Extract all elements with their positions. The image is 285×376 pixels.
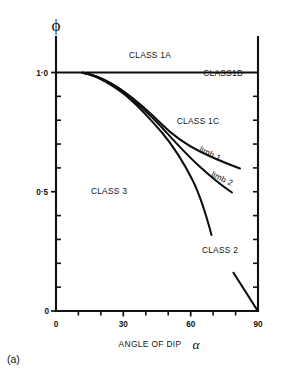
y-tick-label-0: 0	[44, 307, 49, 316]
y-tick-label-1-0: 1·0	[36, 69, 48, 78]
axes-group	[56, 37, 258, 311]
figure-panel-a: 1·0 0·5 0 0 30 60 90 ϕ ANGLE OF DIP α CL…	[0, 0, 285, 376]
x-tick-label-0: 0	[54, 320, 59, 329]
y-tick-label-0-5: 0·5	[36, 188, 48, 197]
region-label-class-1a: CLASS 1A	[129, 50, 171, 60]
region-label-class-3: CLASS 3	[91, 186, 127, 196]
x-tick-label-90: 90	[253, 320, 263, 329]
curve-limb-2	[83, 73, 233, 193]
region-label-class-1b: CLASS1B	[203, 68, 243, 78]
panel-caption: (a)	[7, 353, 20, 365]
x-axis-title: ANGLE OF DIP	[119, 339, 182, 349]
region-label-class-1c: CLASS 1C	[177, 116, 220, 126]
x-tick-label-60: 60	[186, 320, 196, 329]
region-label-class-2: CLASS 2	[202, 245, 238, 255]
curve-class3-boundary	[83, 73, 212, 235]
x-tick-label-30: 30	[119, 320, 129, 329]
curve-class2-boundary	[233, 272, 258, 311]
phi-vs-angle-of-dip-chart: 1·0 0·5 0 0 30 60 90 ϕ ANGLE OF DIP α CL…	[0, 0, 285, 376]
x-axis-alpha-symbol: α	[192, 337, 200, 352]
curve-label-limb-1: limb 1	[198, 145, 223, 163]
y-axis-phi-symbol: ϕ	[52, 16, 61, 35]
